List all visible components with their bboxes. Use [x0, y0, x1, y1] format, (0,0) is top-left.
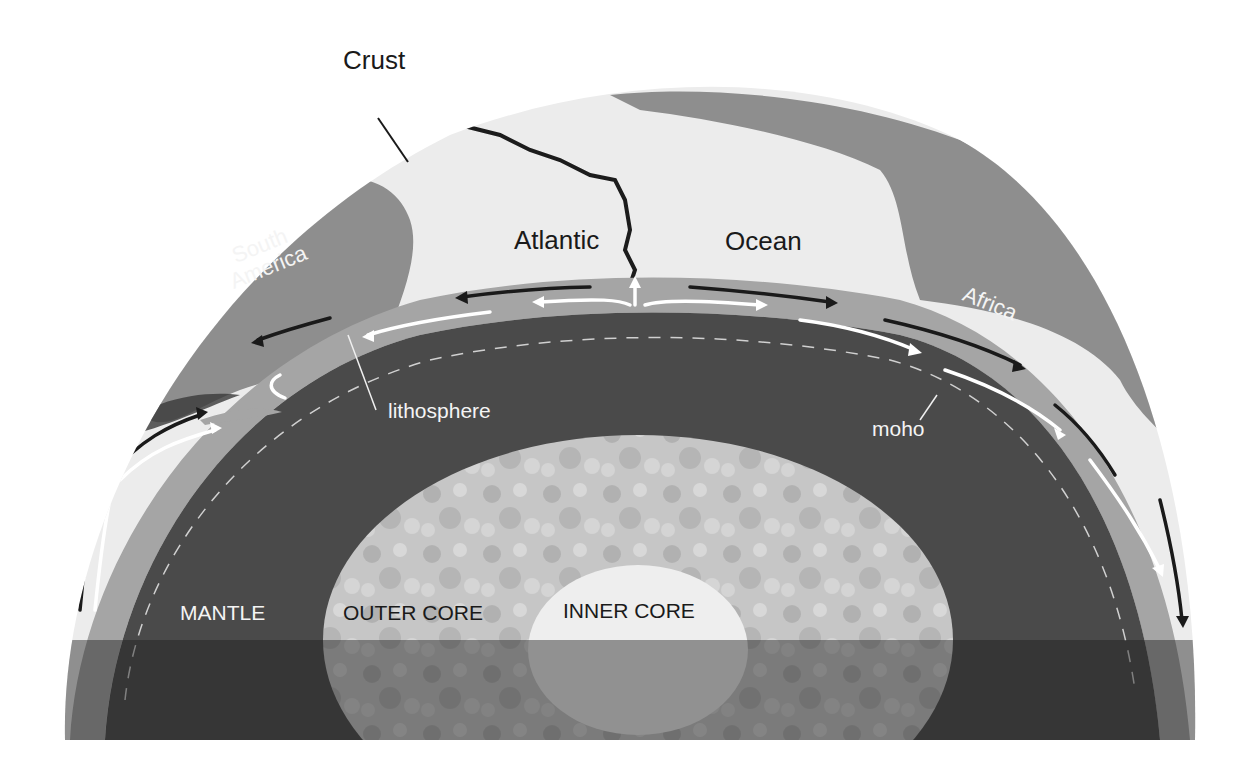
ocean-label: Ocean	[725, 228, 802, 254]
crust-label: Crust	[343, 47, 405, 73]
lithosphere-label: lithosphere	[388, 400, 491, 421]
globe-body	[0, 0, 1256, 777]
inner-core-label: INNER CORE	[563, 600, 695, 621]
lower-shadow-band	[0, 640, 1256, 740]
earth-cross-section-diagram	[0, 0, 1256, 777]
atlantic-label: Atlantic	[514, 227, 599, 253]
moho-label: moho	[872, 418, 925, 439]
outer-core-label: OUTER CORE	[343, 602, 483, 623]
crust-leader-line	[378, 118, 408, 162]
mantle-label: MANTLE	[180, 602, 265, 623]
